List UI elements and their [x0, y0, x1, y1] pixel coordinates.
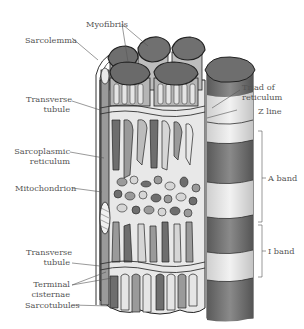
label-a-band: A band	[268, 173, 297, 183]
mitochondrion	[100, 202, 110, 234]
label-terminal-cisternae: Terminal cisternae	[26, 279, 70, 299]
label-line: tubule	[26, 257, 70, 267]
label-line: reticulum	[242, 92, 282, 102]
label-line: cisternae	[26, 289, 70, 299]
label-line: tubule	[26, 104, 70, 114]
label-mitochondrion: Mitochondrion	[15, 183, 76, 193]
label-line: reticulum	[10, 156, 70, 166]
label-sarcoplasmic-reticulum: Sarcoplasmic reticulum	[10, 146, 70, 166]
label-sarcolemma: Sarcolemma	[25, 35, 77, 45]
label-z-line: Z line	[258, 106, 282, 116]
label-line: Triad of	[242, 82, 282, 92]
label-line: Terminal	[26, 279, 70, 289]
label-line: Sarcoplasmic	[10, 146, 70, 156]
label-transverse-tubule-top: Transverse tubule	[26, 94, 70, 114]
label-sarcotubules: Sarcotubules	[25, 300, 80, 310]
label-myofibrils: Myofibrils	[86, 19, 128, 29]
label-i-band: I band	[268, 246, 294, 256]
label-line: Transverse	[26, 94, 70, 104]
label-line: Transverse	[26, 247, 70, 257]
label-triad-of-reticulum: Triad of reticulum	[242, 82, 282, 102]
label-transverse-tubule-bottom: Transverse tubule	[26, 247, 70, 267]
